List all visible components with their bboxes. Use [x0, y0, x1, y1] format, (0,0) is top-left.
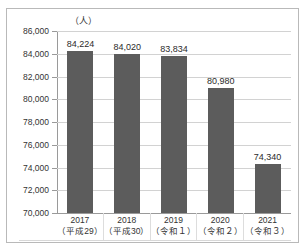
category-year: 2020 — [197, 215, 243, 226]
category-axis: 2017（平成29）2018（平成30）2019（令和１）2020（令和２）20… — [57, 213, 291, 240]
category-axis-label: 2017（平成29） — [57, 213, 104, 240]
bar-value-label: 83,834 — [160, 44, 188, 54]
category-axis-label: 2021（令和３） — [244, 213, 291, 240]
category-era: （令和２） — [197, 226, 243, 237]
bar[interactable] — [161, 56, 187, 213]
y-axis-tick-label: 84,000 — [23, 49, 49, 59]
y-axis-tick-label: 76,000 — [23, 140, 49, 150]
bar[interactable] — [114, 54, 140, 213]
y-axis-unit-label: （人） — [70, 14, 97, 27]
bar-value-label: 84,020 — [113, 42, 141, 52]
category-axis-label: 2020（令和２） — [197, 213, 244, 240]
y-axis-tick-label: 78,000 — [23, 117, 49, 127]
plot-area: 86,00084,00082,00080,00078,00076,00074,0… — [57, 31, 291, 213]
category-axis-label: 2018（平成30） — [104, 213, 151, 240]
bar[interactable] — [255, 164, 281, 213]
y-axis-tick-label: 70,000 — [23, 208, 49, 218]
category-year: 2018 — [104, 215, 150, 226]
category-year: 2017 — [57, 215, 103, 226]
bar-slot: 84,224 — [57, 31, 104, 213]
category-year: 2021 — [244, 215, 291, 226]
bars-layer: 84,22484,02083,83480,98074,340 — [57, 31, 291, 213]
bar-slot: 84,020 — [104, 31, 151, 213]
bar-slot: 83,834 — [151, 31, 198, 213]
category-era: （平成29） — [57, 226, 103, 237]
category-era: （平成30） — [104, 226, 150, 237]
bar[interactable] — [208, 88, 234, 213]
category-era: （令和１） — [151, 226, 197, 237]
category-era: （令和３） — [244, 226, 291, 237]
category-axis-rule — [19, 240, 291, 241]
category-axis-label: 2019（令和１） — [151, 213, 198, 240]
chart-figure: （人） 86,00084,00082,00080,00078,00076,000… — [6, 8, 299, 243]
y-axis-tick-label: 82,000 — [23, 72, 49, 82]
bar-slot: 80,980 — [197, 31, 244, 213]
bar[interactable] — [67, 51, 93, 213]
y-axis-tick-label: 74,000 — [23, 163, 49, 173]
y-axis-tick-label: 72,000 — [23, 185, 49, 195]
bar-value-label: 80,980 — [207, 76, 235, 86]
bar-value-label: 84,224 — [67, 39, 95, 49]
bar-value-label: 74,340 — [254, 152, 282, 162]
category-year: 2019 — [151, 215, 197, 226]
y-axis-tick-label: 80,000 — [23, 94, 49, 104]
bar-slot: 74,340 — [244, 31, 291, 213]
y-axis-tick-label: 86,000 — [23, 26, 49, 36]
